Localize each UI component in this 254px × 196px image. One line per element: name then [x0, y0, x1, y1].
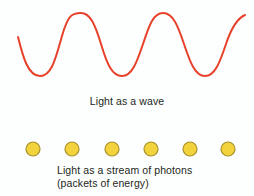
photon-caption: Light as a stream of photons (packets of…	[57, 164, 192, 190]
photon-dot	[183, 142, 197, 156]
photon-dot	[26, 142, 40, 156]
photon-dot	[65, 142, 79, 156]
photon-dot	[144, 142, 158, 156]
photon-caption-line-2: (packets of energy)	[57, 177, 192, 190]
photon-row-graphic	[0, 138, 254, 160]
sine-wave-graphic	[0, 0, 254, 90]
light-as-photons-panel	[0, 138, 254, 160]
light-as-wave-panel	[0, 0, 254, 90]
photon-dot	[221, 142, 235, 156]
sine-wave-curve	[18, 13, 245, 76]
photon-caption-line-1: Light as a stream of photons	[57, 164, 192, 177]
wave-caption: Light as a wave	[0, 95, 254, 108]
photon-dot	[105, 142, 119, 156]
wave-particle-duality-figure: Light as a wave Light as a stream of pho…	[0, 0, 254, 196]
